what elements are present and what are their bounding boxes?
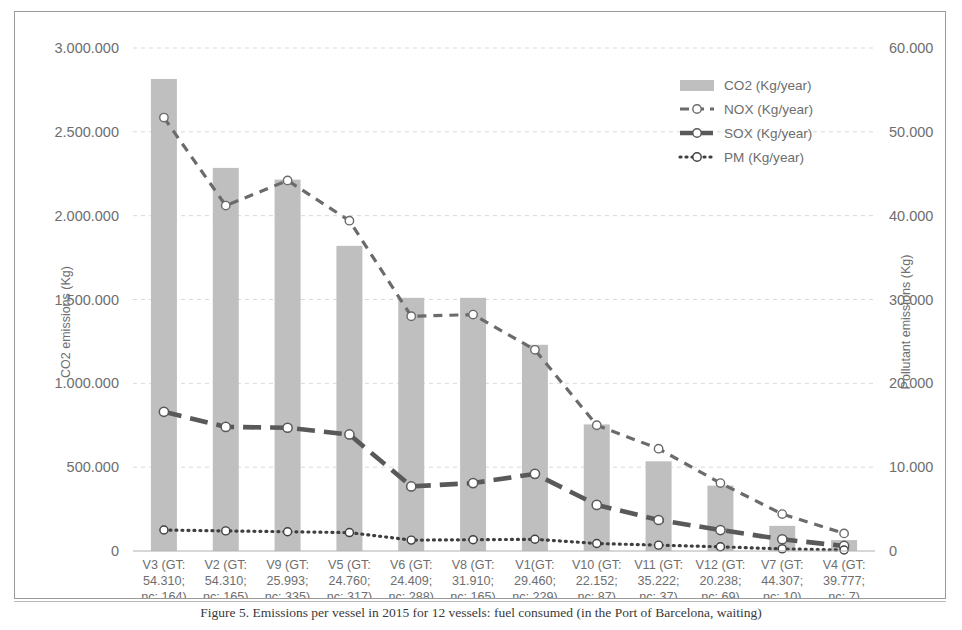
co2-bar xyxy=(584,424,610,551)
legend-item[interactable]: NOX (Kg/year) xyxy=(680,102,813,117)
category-label-line: V5 (GT: xyxy=(328,558,371,572)
category-label-line: 24.409; xyxy=(390,574,432,588)
line-nox xyxy=(164,118,844,534)
data-point-marker xyxy=(407,482,416,491)
x-axis-category-labels: V3 (GT:54.310;nc: 164)V2 (GT:54.310;nc: … xyxy=(141,558,865,598)
data-point-marker xyxy=(840,546,848,554)
category-label-line: nc: 69) xyxy=(701,590,740,598)
category-label-line: 54.310; xyxy=(143,574,185,588)
data-point-marker xyxy=(345,430,354,439)
pollutant-line-series xyxy=(159,113,848,554)
category-label-line: 29.460; xyxy=(514,574,556,588)
data-point-marker xyxy=(469,310,477,318)
data-point-marker xyxy=(222,527,230,535)
data-point-marker xyxy=(469,536,477,544)
co2-bar xyxy=(646,461,672,551)
co2-bar xyxy=(460,298,486,551)
legend-label: NOX (Kg/year) xyxy=(724,102,813,117)
figure-caption: Figure 5. Emissions per vessel in 2015 f… xyxy=(0,604,962,630)
legend-label: CO2 (Kg/year) xyxy=(724,78,812,93)
data-point-marker xyxy=(284,528,292,536)
category-label-line: nc: 288) xyxy=(388,590,434,598)
data-point-marker xyxy=(654,515,663,524)
right-axis-tick: 10.000 xyxy=(889,459,933,475)
category-label-line: V8 (GT: xyxy=(452,558,495,572)
data-point-marker xyxy=(407,536,415,544)
left-axis-title: CO2 emissions (Kg) xyxy=(59,266,73,378)
category-label-line: 24.760; xyxy=(328,574,370,588)
figure-container: 0500.0001.000.0001.500.0002.000.0002.500… xyxy=(0,0,962,630)
category-label-line: 54.310; xyxy=(205,574,247,588)
category-label-line: V3 (GT: xyxy=(143,558,186,572)
data-point-marker xyxy=(531,346,539,354)
category-label-line: 25.993; xyxy=(267,574,309,588)
category-label-line: nc: 164) xyxy=(141,590,187,598)
data-point-marker xyxy=(716,525,725,534)
data-point-marker xyxy=(160,113,168,121)
legend-marker-icon xyxy=(693,153,701,161)
co2-bar xyxy=(275,180,301,551)
left-axis-tick: 0 xyxy=(111,543,119,559)
right-axis-tick: 0 xyxy=(889,543,897,559)
legend-marker-icon xyxy=(693,129,701,137)
category-label-line: V2 (GT: xyxy=(204,558,247,572)
data-point-marker xyxy=(655,541,663,549)
legend-item[interactable]: PM (Kg/year) xyxy=(680,150,804,165)
legend-swatch-icon xyxy=(680,80,714,91)
category-label-line: V4 (GT: xyxy=(823,558,866,572)
category-label-line: 31.910; xyxy=(452,574,494,588)
left-axis-tick: 2.500.000 xyxy=(54,124,119,140)
right-axis-tick: 50.000 xyxy=(889,124,933,140)
co2-bar xyxy=(151,79,177,551)
left-axis-tick: 2.000.000 xyxy=(54,208,119,224)
data-point-marker xyxy=(345,216,353,224)
data-point-marker xyxy=(160,526,168,534)
data-point-marker xyxy=(407,312,415,320)
co2-bar xyxy=(336,246,362,551)
legend-item[interactable]: SOX (Kg/year) xyxy=(680,126,812,141)
category-label-line: nc: 229) xyxy=(512,590,558,598)
category-label-line: 39.777; xyxy=(823,574,865,588)
data-point-marker xyxy=(593,539,601,547)
data-point-marker xyxy=(592,500,601,509)
category-label-line: V12 (GT: xyxy=(696,558,746,572)
category-label-line: 44.307; xyxy=(761,574,803,588)
legend-marker-icon xyxy=(693,105,701,113)
category-label-line: 35.222; xyxy=(638,574,680,588)
data-point-marker xyxy=(778,510,786,518)
data-point-marker xyxy=(283,423,292,432)
category-label-line: nc: 317) xyxy=(327,590,373,598)
data-point-marker xyxy=(716,479,724,487)
category-label-line: nc: 7) xyxy=(828,590,860,598)
data-point-marker xyxy=(345,529,353,537)
data-point-marker xyxy=(778,535,787,544)
data-point-marker xyxy=(531,535,539,543)
data-point-marker xyxy=(716,543,724,551)
caption-rule xyxy=(14,601,946,602)
legend-label: SOX (Kg/year) xyxy=(724,126,812,141)
co2-bar xyxy=(522,345,548,551)
data-point-marker xyxy=(283,176,291,184)
legend-label: PM (Kg/year) xyxy=(724,150,804,165)
data-point-marker xyxy=(654,445,662,453)
left-axis-tick: 3.000.000 xyxy=(54,40,119,56)
category-label-line: V1(GT: xyxy=(515,558,554,572)
line-sox xyxy=(164,412,844,546)
category-label-line: nc: 87) xyxy=(577,590,616,598)
co2-bar xyxy=(707,486,733,551)
emissions-combo-chart: 0500.0001.000.0001.500.0002.000.0002.500… xyxy=(15,12,945,598)
co2-bar xyxy=(213,168,239,551)
legend-item[interactable]: CO2 (Kg/year) xyxy=(680,78,812,93)
category-label-line: nc: 335) xyxy=(265,590,311,598)
right-axis-title: Pollutant emissions (Kg) xyxy=(899,255,913,390)
data-point-marker xyxy=(840,529,848,537)
right-axis-tick: 60.000 xyxy=(889,40,933,56)
left-axis-tick: 500.000 xyxy=(67,459,119,475)
chart-legend: CO2 (Kg/year)NOX (Kg/year)SOX (Kg/year)P… xyxy=(680,78,813,165)
co2-bar xyxy=(398,298,424,551)
category-label-line: nc: 10) xyxy=(763,590,802,598)
category-label-line: V9 (GT: xyxy=(266,558,309,572)
data-point-marker xyxy=(530,469,539,478)
data-point-marker xyxy=(778,545,786,553)
category-label-line: V7 (GT: xyxy=(761,558,804,572)
